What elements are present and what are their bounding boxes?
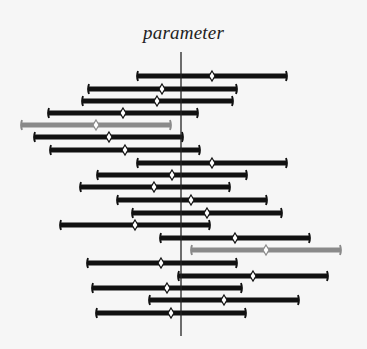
lower-cap	[48, 108, 49, 118]
lower-cap	[60, 220, 61, 230]
lower-cap	[137, 158, 138, 168]
lower-cap	[92, 283, 93, 293]
estimate-diamond-icon	[169, 170, 175, 180]
lower-cap	[132, 208, 133, 218]
upper-cap	[229, 182, 230, 192]
estimate-diamond-icon	[93, 120, 99, 130]
lower-cap	[82, 96, 83, 106]
upper-cap	[170, 120, 171, 130]
estimate-diamond-icon	[132, 220, 138, 230]
estimate-diamond-icon	[151, 182, 157, 192]
estimate-diamond-icon	[232, 233, 238, 243]
lower-cap	[97, 170, 98, 180]
estimate-diamond-icon	[221, 295, 227, 305]
estimate-diamond-icon	[158, 258, 164, 268]
upper-cap	[298, 295, 299, 305]
estimate-diamond-icon	[168, 308, 174, 318]
estimate-diamond-icon	[209, 71, 215, 81]
estimate-diamond-icon	[106, 132, 112, 142]
estimate-diamond-icon	[209, 158, 215, 168]
estimate-diamond-icon	[159, 84, 165, 94]
upper-cap	[232, 96, 233, 106]
lower-cap	[191, 245, 192, 255]
lower-cap	[178, 271, 179, 281]
upper-cap	[286, 158, 287, 168]
lower-cap	[149, 295, 150, 305]
estimate-diamond-icon	[122, 145, 128, 155]
interval-plot	[0, 0, 367, 349]
upper-cap	[286, 71, 287, 81]
upper-cap	[209, 220, 210, 230]
estimate-diamond-icon	[250, 271, 256, 281]
lower-cap	[96, 308, 97, 318]
estimate-diamond-icon	[164, 283, 170, 293]
upper-cap	[236, 258, 237, 268]
upper-cap	[245, 308, 246, 318]
lower-cap	[34, 132, 35, 142]
lower-cap	[117, 195, 118, 205]
estimate-diamond-icon	[204, 208, 210, 218]
estimate-diamond-icon	[120, 108, 126, 118]
estimate-diamond-icon	[188, 195, 194, 205]
lower-cap	[137, 71, 138, 81]
upper-cap	[327, 271, 328, 281]
estimate-diamond-icon	[154, 96, 160, 106]
lower-cap	[50, 145, 51, 155]
upper-cap	[182, 132, 183, 142]
upper-cap	[246, 170, 247, 180]
lower-cap	[87, 258, 88, 268]
upper-cap	[236, 84, 237, 94]
upper-cap	[197, 108, 198, 118]
upper-cap	[241, 283, 242, 293]
upper-cap	[199, 145, 200, 155]
estimate-diamond-icon	[263, 245, 269, 255]
upper-cap	[340, 245, 341, 255]
upper-cap	[309, 233, 310, 243]
upper-cap	[266, 195, 267, 205]
lower-cap	[88, 84, 89, 94]
lower-cap	[21, 120, 22, 130]
lower-cap	[80, 182, 81, 192]
lower-cap	[160, 233, 161, 243]
upper-cap	[281, 208, 282, 218]
